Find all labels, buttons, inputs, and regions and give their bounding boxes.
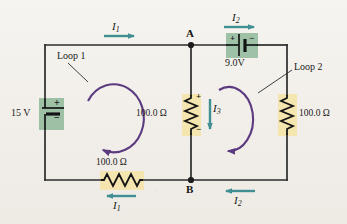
- battery-9v-label: 9.0V: [225, 58, 245, 68]
- loop-2-arrow: [219, 87, 253, 151]
- current-i2-bottom-subscript: 2: [238, 199, 242, 208]
- current-i3-label: I3: [213, 103, 221, 116]
- resistor-bottom-label: 100.0 Ω: [96, 158, 127, 168]
- battery-15v-symbol: [42, 99, 64, 129]
- current-i1-bottom-subscript: 1: [117, 204, 121, 213]
- resistor-right-label: 100.0 Ω: [299, 109, 330, 119]
- battery-15v-minus-sign: −: [54, 113, 60, 123]
- loop-2-label: Loop 2: [294, 62, 323, 72]
- current-i2-bottom-label: I2: [234, 195, 242, 208]
- junction-dot-a: [188, 42, 194, 48]
- current-i2-top-subscript: 2: [236, 16, 240, 25]
- resistor-middle-minus-sign: −: [196, 125, 201, 134]
- loop-1-label: Loop 1: [57, 51, 86, 61]
- battery-15v-plus-sign: +: [54, 98, 60, 108]
- node-label-a: A: [186, 27, 194, 39]
- resistor-bottom-symbol: [101, 174, 143, 186]
- node-label-b: B: [186, 183, 193, 195]
- figure-canvas: A B 15 V + − 9.0V + − 100.0 Ω + − 100.0 …: [0, 0, 347, 224]
- resistor-middle-plus-sign: +: [196, 92, 201, 101]
- current-i2-top-label: I2: [232, 12, 240, 25]
- battery-9v-minus-sign: −: [249, 34, 254, 43]
- current-i3-subscript: 3: [217, 107, 221, 116]
- battery-15v-label: 15 V: [11, 108, 31, 118]
- battery-9v-plus-sign: +: [230, 34, 235, 43]
- circuit-drawing: [0, 0, 347, 224]
- current-i1-bottom-label: I1: [113, 200, 121, 213]
- current-i1-top-label: I1: [112, 21, 120, 34]
- current-i1-top-subscript: 1: [116, 25, 120, 34]
- resistor-middle-label: 100.0 Ω: [136, 109, 167, 119]
- loop-1-leader: [68, 63, 88, 82]
- resistor-right-symbol: [281, 95, 293, 135]
